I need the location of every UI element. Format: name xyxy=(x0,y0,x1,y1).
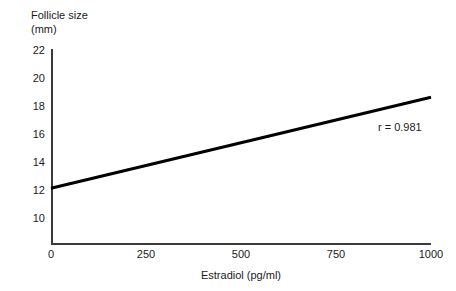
x-axis-title: Estradiol (pg/ml) xyxy=(51,269,431,281)
x-tick-label-250: 250 xyxy=(116,248,176,260)
y-axis-title-line-1: Follicle size xyxy=(31,8,88,22)
y-tick-label-16: 16 xyxy=(20,129,45,140)
correlation-annotation: r = 0.981 xyxy=(378,121,422,133)
y-tick-label-14: 14 xyxy=(20,157,45,168)
y-tick-label-18: 18 xyxy=(20,101,45,112)
y-axis-line xyxy=(51,49,53,244)
chart-figure: Follicle size (mm) 22 20 18 16 14 12 10 … xyxy=(0,0,456,291)
x-tick-label-750: 750 xyxy=(306,248,366,260)
y-axis-title: Follicle size (mm) xyxy=(31,8,88,36)
y-axis-title-line-2: (mm) xyxy=(31,22,88,36)
x-tick-label-0: 0 xyxy=(21,248,81,260)
x-axis-line xyxy=(51,243,431,245)
y-tick-label-12: 12 xyxy=(20,185,45,196)
x-tick-label-1000: 1000 xyxy=(401,248,456,260)
x-tick-label-500: 500 xyxy=(211,248,271,260)
regression-line xyxy=(51,97,431,188)
y-tick-label-10: 10 xyxy=(20,213,45,224)
y-tick-label-20: 20 xyxy=(20,73,45,84)
y-tick-label-22: 22 xyxy=(20,45,45,56)
